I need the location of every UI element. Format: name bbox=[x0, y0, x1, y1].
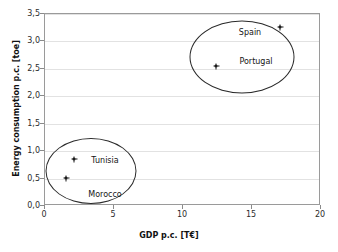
x-tick-mark-20 bbox=[320, 205, 321, 209]
y-tick-label-2-0: 2,0 bbox=[4, 91, 40, 100]
y-tick-mark-3-5 bbox=[40, 13, 44, 14]
y-tick-label-2-5: 2,5 bbox=[4, 64, 40, 73]
y-tick-label-1-0: 1,0 bbox=[4, 146, 40, 155]
x-tick-mark-10 bbox=[182, 205, 183, 209]
datapoint-portugal[interactable] bbox=[215, 65, 218, 68]
datapoint-spain[interactable] bbox=[279, 26, 282, 29]
y-tick-label-3-5: 3,5 bbox=[4, 9, 40, 18]
datapoint-label-morocco: Morocco bbox=[88, 190, 122, 199]
plot-area: Spain Portugal Tunisia Morocco bbox=[44, 13, 320, 205]
scatter-chart: Spain Portugal Tunisia Morocco 3,5 3,0 2… bbox=[0, 0, 338, 252]
datapoint-tunisia[interactable] bbox=[73, 158, 76, 161]
x-tick-label-15: 15 bbox=[246, 210, 256, 219]
datapoint-label-portugal: Portugal bbox=[239, 57, 272, 66]
datapoint-label-spain: Spain bbox=[239, 28, 261, 37]
x-tick-label-0: 0 bbox=[41, 210, 46, 219]
y-tick-mark-2-0 bbox=[40, 95, 44, 96]
x-tick-label-10: 10 bbox=[177, 210, 187, 219]
x-tick-label-5: 5 bbox=[110, 210, 115, 219]
gridline-2-0 bbox=[45, 96, 319, 97]
y-tick-label-3-0: 3,0 bbox=[4, 36, 40, 45]
x-tick-label-20: 20 bbox=[315, 210, 325, 219]
x-tick-mark-5 bbox=[113, 205, 114, 209]
y-tick-mark-3-0 bbox=[40, 40, 44, 41]
y-tick-mark-1-5 bbox=[40, 123, 44, 124]
y-tick-label-0-5: 0,5 bbox=[4, 174, 40, 183]
y-tick-mark-1-0 bbox=[40, 150, 44, 151]
x-axis-title: GDP p.c. [T€] bbox=[0, 231, 338, 240]
y-tick-label-0-0: 0,0 bbox=[4, 201, 40, 210]
y-tick-mark-0-5 bbox=[40, 178, 44, 179]
datapoint-label-tunisia: Tunisia bbox=[91, 156, 118, 165]
y-tick-label-1-5: 1,5 bbox=[4, 119, 40, 128]
x-tick-mark-0 bbox=[44, 205, 45, 209]
gridline-3-5 bbox=[45, 14, 319, 15]
y-tick-mark-2-5 bbox=[40, 68, 44, 69]
x-tick-mark-15 bbox=[251, 205, 252, 209]
datapoint-morocco[interactable] bbox=[65, 177, 68, 180]
y-axis-title: Energy consumption p.c. [toe] bbox=[12, 14, 21, 204]
gridline-1-5 bbox=[45, 124, 319, 125]
